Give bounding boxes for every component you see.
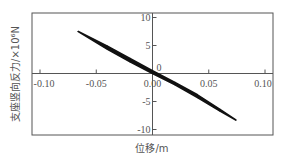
y-axis-title: 支座竖向反力/×10⁶N <box>9 26 21 122</box>
y-tick-label: -5 <box>142 96 150 107</box>
data-point <box>174 84 175 85</box>
data-point <box>107 45 108 46</box>
data-point <box>152 73 153 74</box>
x-tick-label: 0.00 <box>144 78 162 89</box>
y-tick-label: 10 <box>141 12 151 23</box>
data-point <box>78 31 79 32</box>
data-point <box>219 110 220 111</box>
data-point <box>107 49 108 50</box>
series-layer <box>78 31 237 121</box>
x-tick-label: 0.05 <box>200 78 218 89</box>
chart: -0.10-0.050.000.050.10 1050-5-10 位移/m 支座… <box>0 0 285 159</box>
data-point <box>152 70 153 71</box>
x-tick-label: 0.10 <box>254 78 272 89</box>
data-point <box>129 61 130 62</box>
data-point <box>197 97 198 98</box>
series-line <box>78 32 236 121</box>
data-point <box>174 82 175 83</box>
data-point <box>129 58 130 59</box>
y-tick-label: -10 <box>137 124 150 135</box>
x-tick-label: -0.05 <box>86 78 107 89</box>
y-tick-label: 0 <box>157 62 162 73</box>
data-point <box>235 119 236 120</box>
y-tick-label: 5 <box>146 40 151 51</box>
data-point <box>219 109 220 110</box>
x-tick-label: -0.10 <box>34 78 55 89</box>
data-point <box>197 94 198 95</box>
x-axis-title: 位移/m <box>135 142 168 154</box>
